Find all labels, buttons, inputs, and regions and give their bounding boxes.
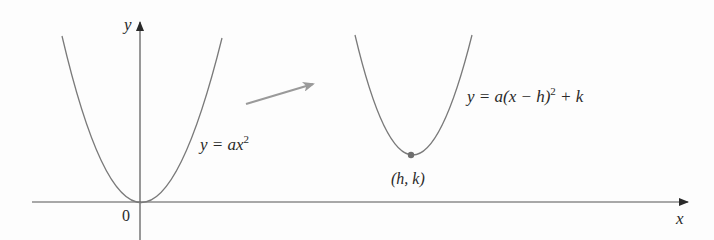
y-axis-label: y	[124, 16, 132, 33]
vertex-label: (h, k)	[391, 171, 425, 187]
shifted-equation-suffix: + k	[556, 87, 584, 106]
shifted-parabola-equation: y = a(x − h)2 + k	[467, 86, 583, 105]
shift-arrow	[246, 84, 313, 104]
vertex-point	[408, 152, 414, 158]
shifted-equation-base: y = a(x − h)	[467, 87, 550, 106]
origin-label: 0	[122, 208, 130, 224]
standard-parabola-equation: y = ax2	[200, 134, 249, 153]
diagram-canvas	[0, 0, 714, 240]
x-axis-label: x	[676, 210, 684, 227]
parabola-shift-diagram: y x 0 y = ax2 y = a(x − h)2 + k (h, k)	[0, 0, 714, 240]
standard-equation-exponent: 2	[244, 133, 250, 145]
standard-equation-base: y = ax	[200, 135, 244, 154]
shifted-parabola-curve	[355, 35, 472, 155]
standard-parabola-curve	[62, 36, 222, 203]
